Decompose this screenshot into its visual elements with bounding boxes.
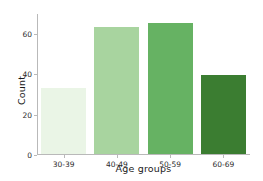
x-tick-mark	[117, 155, 118, 158]
y-axis-title: Count	[14, 0, 28, 181]
y-tick-label: 0	[27, 151, 32, 160]
bar	[94, 27, 139, 154]
y-tick-mark	[34, 74, 37, 75]
y-tick-label: 60	[22, 30, 32, 39]
plot-area: 0204060 30-3940-4950-5960-69	[37, 14, 250, 155]
bar	[148, 23, 193, 154]
y-tick-mark	[34, 115, 37, 116]
x-tick-mark	[170, 155, 171, 158]
bar-chart-figure: Count 0204060 30-3940-4950-5960-69 Age g…	[0, 0, 263, 181]
x-axis-spine	[37, 154, 250, 155]
bar	[41, 88, 86, 154]
y-tick-mark	[34, 34, 37, 35]
y-axis-spine	[37, 14, 38, 155]
bar	[201, 75, 246, 154]
x-tick-mark	[64, 155, 65, 158]
y-tick-mark	[34, 155, 37, 156]
y-tick-label: 40	[22, 70, 32, 79]
x-tick-mark	[223, 155, 224, 158]
x-axis-title: Age groups	[37, 163, 250, 174]
y-tick-label: 20	[22, 110, 32, 119]
